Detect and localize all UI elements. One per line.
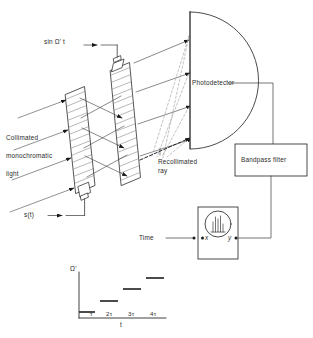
diagram-canvas: sin Ω' t Collimated monochromatic light …: [0, 0, 313, 338]
staircase-x-tick-3: 3τ: [128, 310, 134, 319]
scope-y-terminal-dot: [235, 237, 238, 240]
staircase-x-tick-2: 2τ: [106, 310, 112, 319]
input-ray-4: [10, 188, 74, 212]
scope-x-terminal-dot: [201, 237, 204, 240]
drive-signal-label: sin Ω' t: [44, 38, 65, 47]
diagram-svg: [0, 0, 313, 338]
staircase-x-axis-label: t: [120, 321, 122, 330]
bragg-cell-1-transducer: [78, 182, 90, 215]
staircase-x-tick-1: τ: [90, 310, 93, 319]
staircase-x-tick-4: 4τ: [150, 310, 156, 319]
input-ray-1: [18, 100, 66, 118]
input-beam-label-line2: monochromatic: [6, 152, 52, 161]
bandpass-filter-label: Bandpass filter: [241, 156, 286, 165]
photodetector-label: Photodetector: [192, 79, 234, 88]
recollimated-ray: [140, 138, 190, 160]
staircase-steps: [79, 278, 164, 312]
scope-y-terminal-label: y: [228, 234, 231, 243]
input-ray-3: [12, 158, 71, 180]
recollimated-ray-label-line2: ray: [158, 167, 167, 176]
wire-filter-to-scope: [238, 176, 271, 238]
bragg-cell-2-transducer: [112, 45, 124, 72]
cell-input-signal-label: s(t): [24, 211, 34, 220]
scope-x-terminal-label: x: [205, 234, 208, 243]
bragg-cell-1: [66, 87, 96, 194]
recollimated-ray-label-line1: Recollimated: [158, 158, 197, 167]
input-beam-label-line3: light: [6, 170, 19, 179]
time-label: Time: [139, 234, 154, 243]
output-ray-group: [134, 40, 192, 156]
oscilloscope-box: [198, 207, 238, 259]
input-beam-label-line1: Collimated: [6, 134, 38, 143]
staircase-y-axis-label: Ω': [70, 265, 77, 274]
